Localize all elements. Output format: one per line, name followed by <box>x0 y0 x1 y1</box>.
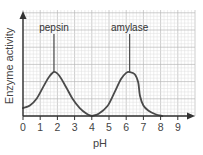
x-tick-label: 5 <box>106 121 112 133</box>
curves <box>23 72 162 116</box>
x-axis-arrow-icon <box>187 113 195 120</box>
x-tick-label: 2 <box>54 121 60 133</box>
enzyme-activity-chart: 0123456789 pepsinamylase pH Enzyme activ… <box>0 0 203 155</box>
x-tick-label: 3 <box>72 121 78 133</box>
pepsin-label: pepsin <box>39 22 68 33</box>
x-tick-label: 1 <box>37 121 43 133</box>
y-axis-title: Enzyme activity <box>3 27 15 104</box>
x-tick-label: 4 <box>89 121 95 133</box>
x-tick-label: 8 <box>158 121 164 133</box>
y-axis-arrow-icon <box>20 11 27 19</box>
x-tick-label: 6 <box>123 121 129 133</box>
x-tick-label: 9 <box>175 121 181 133</box>
amylase-label: amylase <box>111 22 149 33</box>
x-axis-title: pH <box>93 137 107 149</box>
amylase-curve <box>92 72 163 116</box>
x-ticks: 0123456789 <box>20 116 181 133</box>
x-tick-label: 7 <box>140 121 146 133</box>
x-tick-label: 0 <box>20 121 26 133</box>
